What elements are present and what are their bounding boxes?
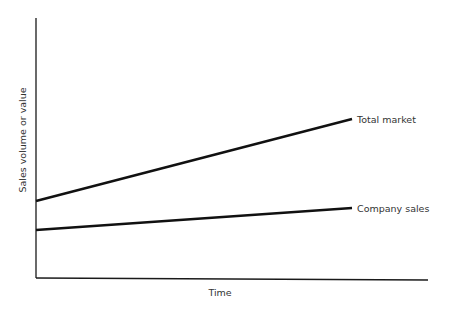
series-label-company-sales: Company sales bbox=[357, 203, 429, 214]
x-axis-label: Time bbox=[207, 287, 231, 298]
series-line-total-market bbox=[36, 119, 352, 201]
series-label-total-market: Total market bbox=[356, 114, 416, 125]
series-line-company-sales bbox=[36, 208, 352, 230]
y-axis-label: Sales volume or value bbox=[17, 87, 28, 192]
x-axis bbox=[36, 278, 428, 280]
line-chart: Total market Company sales Time Sales vo… bbox=[0, 0, 450, 311]
